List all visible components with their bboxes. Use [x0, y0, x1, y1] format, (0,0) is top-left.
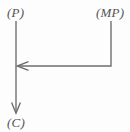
edge-modus-ponens-to-premise-line [17, 21, 111, 70]
node-label-modus-ponens: (MP) [96, 6, 124, 19]
logic-flow-diagram: (P) (MP) (C) [0, 0, 130, 132]
node-label-premise: (P) [7, 6, 24, 19]
edge-line-elbow [19, 21, 111, 66]
node-label-conclusion: (C) [7, 116, 25, 129]
